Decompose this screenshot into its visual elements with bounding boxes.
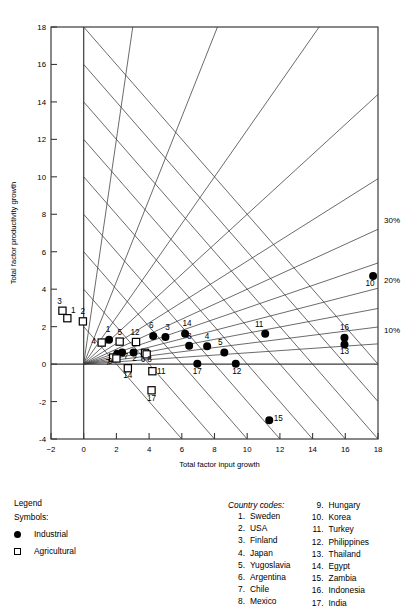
country-code-item: 11.Turkey <box>307 524 370 535</box>
country-code-number: 1. <box>228 511 250 522</box>
y-tick-label: 16 <box>37 60 46 69</box>
data-point-label: 12 <box>130 328 140 337</box>
country-code-name: Japan <box>250 548 273 559</box>
data-point-label: 6 <box>149 321 154 330</box>
data-point-industrial <box>220 348 228 356</box>
country-code-number: 8. <box>228 596 250 607</box>
country-code-number: 4. <box>228 548 250 559</box>
legend: Legend Symbols: Industrial Agricultural <box>14 498 76 556</box>
country-code-item: 17.India <box>307 598 370 609</box>
data-point-industrial <box>161 333 169 341</box>
y-tick-label: 8 <box>42 210 46 219</box>
country-code-name: Finland <box>250 535 277 546</box>
data-point-label: 17 <box>193 367 203 376</box>
country-code-name: Thailand <box>329 549 361 560</box>
country-code-number: 15. <box>307 573 329 584</box>
country-code-number: 9. <box>307 500 329 511</box>
series-agricultural: 12345678911121417 <box>57 297 166 404</box>
data-point-label: 11 <box>255 320 264 329</box>
ray-line <box>84 27 319 364</box>
legend-entry-label: Agricultural <box>34 546 76 556</box>
y-tick-label: -2 <box>39 398 46 407</box>
country-code-name: Argentina <box>250 572 286 583</box>
y-tick-label: 12 <box>37 135 46 144</box>
country-code-name: USA <box>250 523 267 534</box>
country-code-number: 11. <box>307 524 329 535</box>
data-point-label: 8 <box>147 355 152 364</box>
country-code-item: 1.Sweden <box>228 511 291 522</box>
country-code-number: 13. <box>307 549 329 560</box>
data-point-label: 16 <box>340 323 350 332</box>
data-point-industrial <box>261 330 269 338</box>
data-point-agricultural <box>79 318 86 325</box>
country-codes-column-right: 9.Hungary10.Korea11.Turkey12.Philippines… <box>307 500 370 610</box>
data-point-label: 2 <box>81 307 86 316</box>
country-code-number: 3. <box>228 535 250 546</box>
iso-output-line <box>84 252 248 439</box>
country-code-item: 6.Argentina <box>228 572 291 583</box>
country-code-item: 10.Korea <box>307 512 370 523</box>
country-codes-column-left: Country codes: 1.Sweden2.USA3.Finland4.J… <box>228 500 291 610</box>
data-point-agricultural <box>148 387 155 394</box>
data-point-agricultural <box>59 307 66 314</box>
ray-line <box>84 27 133 364</box>
data-point-label: 3 <box>57 297 62 306</box>
legend-entry-label: Industrial <box>34 529 68 539</box>
x-tick-label: 12 <box>276 445 285 454</box>
country-code-name: Indonesia <box>329 585 365 596</box>
x-axis-label: Total factor input growth <box>179 460 260 469</box>
country-code-name: Zambia <box>329 573 357 584</box>
country-code-item: 12.Philippines <box>307 537 370 548</box>
y-axis-label: Total factor productivity growth <box>9 182 18 285</box>
country-code-item: 16.Indonesia <box>307 585 370 596</box>
country-codes: Country codes: 1.Sweden2.USA3.Finland4.J… <box>228 500 369 610</box>
country-code-item: 5.Yugoslavia <box>228 560 291 571</box>
iso-output-line <box>84 64 378 401</box>
data-point-label: 3 <box>165 323 170 332</box>
country-code-name: Hungary <box>329 500 361 511</box>
country-code-name: Philippines <box>329 537 370 548</box>
data-point-industrial <box>149 332 157 340</box>
y-tick-label: -4 <box>39 435 47 444</box>
data-point-label: 1 <box>106 325 111 334</box>
x-tick-label: 10 <box>243 445 252 454</box>
country-code-number: 10. <box>307 512 329 523</box>
legend-entry-agricultural: Agricultural <box>14 546 76 556</box>
country-code-number: 17. <box>307 598 329 609</box>
data-point-agricultural <box>116 338 123 345</box>
data-point-agricultural <box>132 338 139 345</box>
data-point-label: 5 <box>117 328 122 337</box>
country-code-item: 7.Chile <box>228 584 291 595</box>
country-code-item: 15.Zambia <box>307 573 370 584</box>
x-tick-label: 16 <box>341 445 350 454</box>
ray-line <box>84 27 218 364</box>
country-code-number: 12. <box>307 537 329 548</box>
data-point-agricultural <box>149 368 156 375</box>
data-point-industrial <box>105 336 113 344</box>
country-code-item: 2.USA <box>228 523 291 534</box>
x-tick-label: 2 <box>114 445 118 454</box>
data-point-label: 7 <box>124 352 129 361</box>
data-point-industrial <box>203 342 211 350</box>
data-point-label: 13 <box>340 347 350 356</box>
country-code-name: Mexico <box>250 596 277 607</box>
data-point-industrial <box>340 334 348 342</box>
y-tick-label: 4 <box>42 285 47 294</box>
iso-output-line <box>84 102 378 439</box>
legend-title: Legend <box>14 498 76 508</box>
y-tick-label: 10 <box>37 173 46 182</box>
ray-label-20%: 20% <box>384 276 400 285</box>
data-point-label: 10 <box>366 279 376 288</box>
country-code-item: 8.Mexico <box>228 596 291 607</box>
x-tick-label: 6 <box>180 445 184 454</box>
iso-output-line <box>84 139 346 439</box>
data-point-label: 4 <box>91 337 96 346</box>
open-square-icon <box>14 548 34 555</box>
x-tick-label: −2 <box>47 445 56 454</box>
data-point-agricultural <box>98 339 105 346</box>
country-code-name: Chile <box>250 584 269 595</box>
data-point-industrial <box>185 342 193 350</box>
ray-label-30%: 30% <box>384 216 400 225</box>
data-point-label: 17 <box>147 394 157 403</box>
y-tick-label: 18 <box>37 23 46 32</box>
